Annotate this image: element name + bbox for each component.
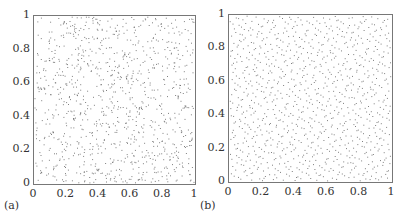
y-tick-label: 1 [205, 8, 225, 19]
scatter-plot-a [33, 15, 196, 185]
y-tick-label: 0.4 [205, 108, 225, 119]
x-tick-label: 0.4 [281, 186, 305, 197]
y-tick-label: 0.8 [205, 41, 225, 52]
x-tick-label: 0.2 [249, 186, 273, 197]
y-tick-label: 0.6 [10, 76, 30, 87]
panel-b: 00.20.40.60.81 00.20.40.60.81 (b) [204, 0, 408, 216]
y-tick-label: 0 [10, 177, 30, 188]
x-tick-label: 1 [182, 188, 206, 199]
y-tick-label: 1 [10, 9, 30, 20]
scatter-points [34, 16, 195, 184]
x-tick-label: 0.6 [118, 188, 142, 199]
scatter-plot-b [228, 14, 393, 183]
panel-a: 00.20.40.60.81 00.20.40.60.81 (a) [0, 0, 204, 216]
y-tick-label: 0.6 [205, 75, 225, 86]
x-tick-label: 0.2 [53, 188, 77, 199]
y-tick-label: 0 [205, 175, 225, 186]
x-tick-label: 0.8 [346, 186, 370, 197]
panel-label-a: (a) [4, 199, 19, 212]
x-tick-label: 0.8 [150, 188, 174, 199]
x-tick-label: 0.6 [314, 186, 338, 197]
x-tick-label: 0 [21, 188, 45, 199]
y-tick-label: 0.2 [10, 143, 30, 154]
panel-label-b: (b) [200, 199, 216, 212]
y-tick-label: 0.4 [10, 110, 30, 121]
scatter-points [229, 15, 392, 182]
x-tick-label: 1 [379, 186, 403, 197]
y-tick-label: 0.2 [205, 142, 225, 153]
x-tick-label: 0.4 [85, 188, 109, 199]
x-tick-label: 0 [216, 186, 240, 197]
y-tick-label: 0.8 [10, 43, 30, 54]
